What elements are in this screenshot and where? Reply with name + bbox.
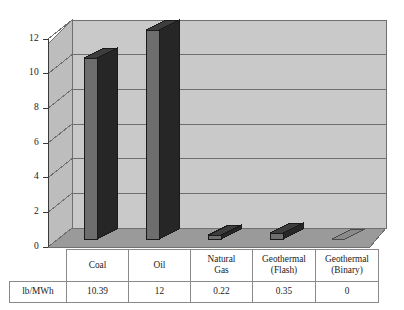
header-line1: Oil: [154, 260, 166, 270]
table-header-natural-gas: Natural Gas: [191, 250, 253, 282]
header-line2: Gas: [214, 265, 228, 275]
plot-area: 12 10 8 6 4 2 0: [0, 0, 404, 262]
header-line2: (Binary): [331, 265, 363, 275]
data-table: Coal Oil Natural Gas Geothermal (Flash) …: [9, 249, 379, 303]
table-header-coal: Coal: [67, 250, 129, 282]
y-tick-8: 8: [17, 103, 39, 113]
header-line1: Natural: [208, 254, 236, 264]
header-line2: (Flash): [271, 265, 297, 275]
y-tick-12: 12: [17, 34, 39, 44]
table-header-oil: Oil: [129, 250, 191, 282]
table-value-oil: 12: [129, 282, 191, 303]
table-row-label: lb/MWh: [10, 282, 67, 303]
bar-oil: [146, 20, 179, 239]
header-line1: Geothermal: [262, 254, 306, 264]
table-corner-cell: [10, 250, 67, 282]
table-value-geothermal-flash: 0.35: [253, 282, 316, 303]
table-header-row: Coal Oil Natural Gas Geothermal (Flash) …: [10, 250, 379, 282]
bar-coal: [84, 48, 117, 239]
y-tick-4: 4: [17, 172, 39, 182]
table-header-geothermal-flash: Geothermal (Flash): [253, 250, 316, 282]
y-tick-10: 10: [17, 68, 39, 78]
table-value-natural-gas: 0.22: [191, 282, 253, 303]
table-value-geothermal-binary: 0: [316, 282, 379, 303]
y-axis: [43, 39, 48, 247]
y-tick-6: 6: [17, 138, 39, 148]
table-value-row: lb/MWh 10.39 12 0.22 0.35 0: [10, 282, 379, 303]
y-tick-2: 2: [17, 207, 39, 217]
chart-container: 12 10 8 6 4 2 0 Coal Oil Natural Gas: [0, 0, 404, 310]
header-line1: Coal: [89, 260, 107, 270]
table-value-coal: 10.39: [67, 282, 129, 303]
table-header-geothermal-binary: Geothermal (Binary): [316, 250, 379, 282]
header-line1: Geothermal: [325, 254, 369, 264]
